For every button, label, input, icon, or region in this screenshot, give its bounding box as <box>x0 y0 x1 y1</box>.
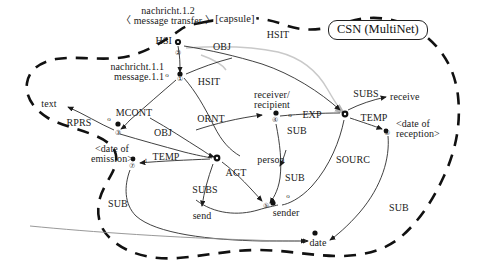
relation-ornt: ORNT <box>197 114 225 124</box>
edge-sub-reception-date <box>330 136 388 240</box>
concept-date-emission-line2: emission> <box>91 154 133 164</box>
relation-subs-send: SUBS <box>192 185 217 195</box>
relation-rprs: RPRS <box>67 118 92 128</box>
relation-subs-top: SUBS <box>353 89 378 99</box>
relation-hsit-mid: HSIT <box>198 77 221 87</box>
edge-mcont <box>121 80 176 129</box>
edge-n1-right <box>186 58 232 74</box>
sort-marker-n1: o <box>165 71 169 79</box>
relation-sub-person: SUB <box>285 173 305 183</box>
relation-agt: AGT <box>226 168 247 178</box>
csn-diagram-canvas: CSN (MultiNet) [capsule] nachricht.1.2 〈… <box>0 0 485 275</box>
concept-nachricht-1-1: nachricht.1.1 message.1.1 <box>110 62 164 82</box>
edge-bottom-to-date <box>30 226 306 241</box>
relation-temp-right: TEMP <box>360 113 387 123</box>
relation-hsit-top: HSIT <box>267 30 290 40</box>
relation-obj-top: OBJ <box>213 42 231 52</box>
relation-mcont: MCONT <box>116 108 153 118</box>
relation-sub-date: SUB <box>389 203 409 213</box>
edge-sub-emission-date <box>126 170 308 241</box>
concept-nachricht-1-2: nachricht.1.2 〈 message transfer 〉 <box>121 6 215 26</box>
relation-obj-mid: OBJ <box>154 128 172 138</box>
relation-sourc: SOURC <box>336 155 370 165</box>
sort-marker-n7: t <box>145 156 147 164</box>
node-marker-6: ⑥ <box>384 129 390 137</box>
concept-receive: receive <box>390 92 420 102</box>
concept-date-of-reception: <date of reception> <box>396 119 440 139</box>
concept-nachricht-1-2-line2: 〈 message transfer 〉 <box>121 16 215 26</box>
concept-nachricht-1-1-line2: message.1.1 <box>110 72 164 82</box>
node-marker-2: ② <box>175 49 181 57</box>
sort-marker-n5: o <box>286 192 290 200</box>
node-marker-3: ③ <box>115 129 121 137</box>
concept-person: person <box>257 155 284 165</box>
node-marker-4: ④ <box>272 116 278 124</box>
concept-receiver-recipient: receiver/ recipient <box>254 90 290 110</box>
concept-hsi: HSI <box>156 36 172 46</box>
concept-receiver-line2: recipient <box>254 100 290 110</box>
node-marker-5: ⑤ <box>263 202 269 210</box>
capsule-boundary <box>27 18 459 259</box>
concept-text: text <box>41 99 56 109</box>
concept-sender: sender <box>273 208 300 218</box>
concept-date-of-emission: <date of emission> <box>91 144 133 164</box>
csn-title-box: CSN (MultiNet) <box>328 20 428 40</box>
node-marker-1: ① <box>177 75 183 83</box>
concept-send: send <box>193 211 212 221</box>
relation-temp-left: TEMP <box>152 152 179 162</box>
concept-date: date <box>309 238 326 248</box>
sort-marker-n3: o <box>107 115 111 123</box>
concept-date-reception-line2: reception> <box>396 129 440 139</box>
sort-marker-n4: o <box>288 111 292 119</box>
node-marker-7: ⑦ <box>129 162 135 170</box>
capsule-label: [capsule] <box>213 14 256 25</box>
relation-sub-exp: SUB <box>287 126 307 136</box>
relation-exp: EXP <box>302 110 321 120</box>
relation-sub-emission: SUB <box>108 199 128 209</box>
